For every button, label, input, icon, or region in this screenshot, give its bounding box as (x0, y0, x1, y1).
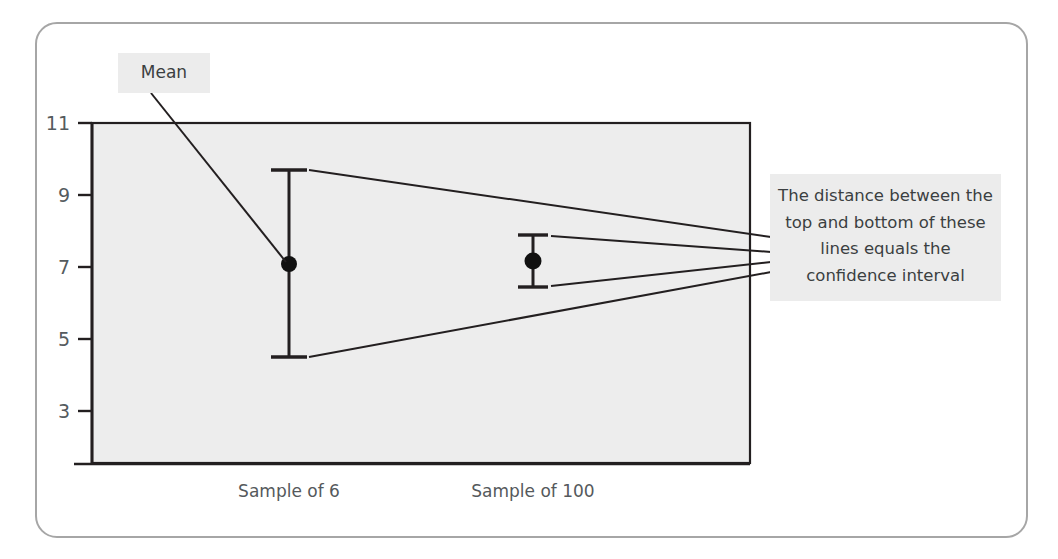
x-category-label-sample-of-6: Sample of 6 (238, 481, 340, 501)
y-tick-label-0: 11 (46, 112, 70, 134)
y-tick-label-1: 9 (58, 184, 70, 206)
x-category-label-sample-of-100: Sample of 100 (471, 481, 594, 501)
y-tick-label-3: 5 (58, 328, 70, 350)
plot-area-background (92, 123, 750, 463)
mean-marker-sample-of-100 (525, 253, 542, 270)
figure-container: 11 9 7 5 3 Sample of 6 Sample of 100 Mea… (0, 0, 1058, 559)
confidence-interval-annotation: The distance between the top and bottom … (770, 174, 1001, 301)
y-tick-label-2: 7 (58, 256, 70, 278)
y-tick-label-4: 3 (58, 400, 70, 422)
mean-annotation-label: Mean (118, 53, 210, 93)
